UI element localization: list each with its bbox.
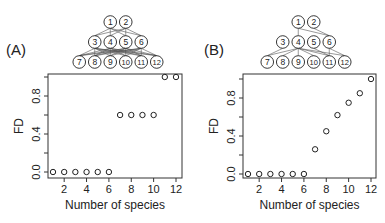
species-node-label: 6 — [327, 37, 332, 47]
network-edge — [267, 48, 298, 55]
food-web-diagram: 123456789101112 — [73, 16, 163, 69]
figure-canvas: (A)1234567891011120.00.40.8FD24681012Num… — [0, 0, 385, 223]
network-edge — [95, 28, 111, 35]
data-point — [368, 76, 373, 81]
panel-label: (B) — [204, 41, 224, 58]
species-node-label: 1 — [296, 17, 301, 27]
x-axis: 24681012Number of species — [61, 178, 182, 212]
species-node-label: 2 — [311, 17, 316, 27]
y-axis-label: FD — [12, 118, 26, 134]
x-tick-label: 12 — [170, 183, 182, 195]
y-axis-label: FD — [207, 118, 221, 134]
data-point — [268, 171, 273, 176]
y-tick-label: 0.4 — [30, 126, 42, 141]
x-axis-label: Number of species — [65, 198, 165, 212]
y-tick-label: 0.0 — [225, 166, 237, 181]
network-edge — [298, 28, 329, 35]
x-tick-label: 4 — [83, 183, 89, 195]
data-point — [312, 147, 317, 152]
x-tick-label: 6 — [301, 183, 307, 195]
species-node-label: 9 — [108, 57, 113, 67]
species-node-label: 1 — [108, 17, 113, 27]
network-edge — [126, 28, 142, 35]
x-tick-label: 10 — [148, 183, 160, 195]
x-tick-label: 6 — [106, 183, 112, 195]
x-axis-label: Number of species — [259, 198, 359, 212]
data-point — [50, 169, 55, 174]
species-node-label: 3 — [92, 37, 97, 47]
data-point — [290, 171, 295, 176]
data-point — [95, 169, 100, 174]
data-point — [84, 169, 89, 174]
data-point — [256, 171, 261, 176]
species-node-label: 11 — [325, 58, 333, 67]
plot-frame — [243, 74, 376, 178]
species-node-label: 5 — [123, 37, 128, 47]
species-node-label: 9 — [296, 57, 301, 67]
panel-a: (A)1234567891011120.00.40.8FD24681012Num… — [6, 16, 182, 212]
network-edge — [267, 48, 283, 55]
x-tick-label: 2 — [256, 183, 262, 195]
x-tick-label: 8 — [128, 183, 134, 195]
data-point — [140, 112, 145, 117]
y-axis: 0.00.40.8FD — [12, 77, 48, 180]
data-point — [346, 100, 351, 105]
data-point — [61, 169, 66, 174]
species-node-label: 10 — [122, 58, 130, 67]
species-node-label: 8 — [92, 57, 97, 67]
data-point — [73, 169, 78, 174]
data-point — [173, 74, 178, 79]
species-node-label: 11 — [137, 58, 145, 67]
data-point — [117, 112, 122, 117]
x-tick-label: 2 — [61, 183, 67, 195]
species-node-label: 7 — [77, 57, 82, 67]
x-tick-label: 4 — [278, 183, 284, 195]
food-web-diagram: 123456789101112 — [261, 16, 351, 69]
species-node-label: 3 — [280, 37, 285, 47]
species-node-label: 2 — [123, 17, 128, 27]
data-series — [50, 74, 178, 174]
species-node-label: 5 — [311, 37, 316, 47]
x-tick-label: 8 — [323, 183, 329, 195]
network-edge — [314, 48, 330, 55]
data-point — [106, 169, 111, 174]
x-tick-label: 10 — [343, 183, 355, 195]
species-node-label: 8 — [280, 57, 285, 67]
species-node-label: 10 — [310, 58, 318, 67]
species-node-label: 7 — [265, 57, 270, 67]
data-point — [279, 171, 284, 176]
y-axis: 0.00.40.8FD — [207, 79, 243, 182]
data-point — [301, 171, 306, 176]
y-tick-label: 0.8 — [30, 88, 42, 103]
x-tick-label: 12 — [365, 183, 377, 195]
species-node-label: 4 — [296, 37, 301, 47]
panel-b: (B)1234567891011120.00.40.8FD24681012Num… — [204, 16, 377, 212]
plot-frame — [48, 74, 182, 178]
data-point — [324, 129, 329, 134]
data-point — [162, 74, 167, 79]
species-node-label: 12 — [153, 58, 161, 67]
x-axis: 24681012Number of species — [256, 178, 377, 212]
data-point — [245, 171, 250, 176]
data-series — [245, 76, 373, 176]
data-point — [335, 112, 340, 117]
species-node-label: 6 — [139, 37, 144, 47]
network-edge — [298, 48, 329, 55]
species-node-label: 4 — [108, 37, 113, 47]
data-point — [151, 112, 156, 117]
panel-label: (A) — [6, 41, 26, 58]
y-tick-label: 0.0 — [30, 164, 42, 179]
network-edge — [283, 48, 299, 55]
y-tick-label: 0.8 — [225, 90, 237, 105]
species-node-label: 12 — [341, 58, 349, 67]
data-point — [129, 112, 134, 117]
y-tick-label: 0.4 — [225, 128, 237, 143]
network-edge — [314, 28, 330, 35]
data-point — [357, 91, 362, 96]
